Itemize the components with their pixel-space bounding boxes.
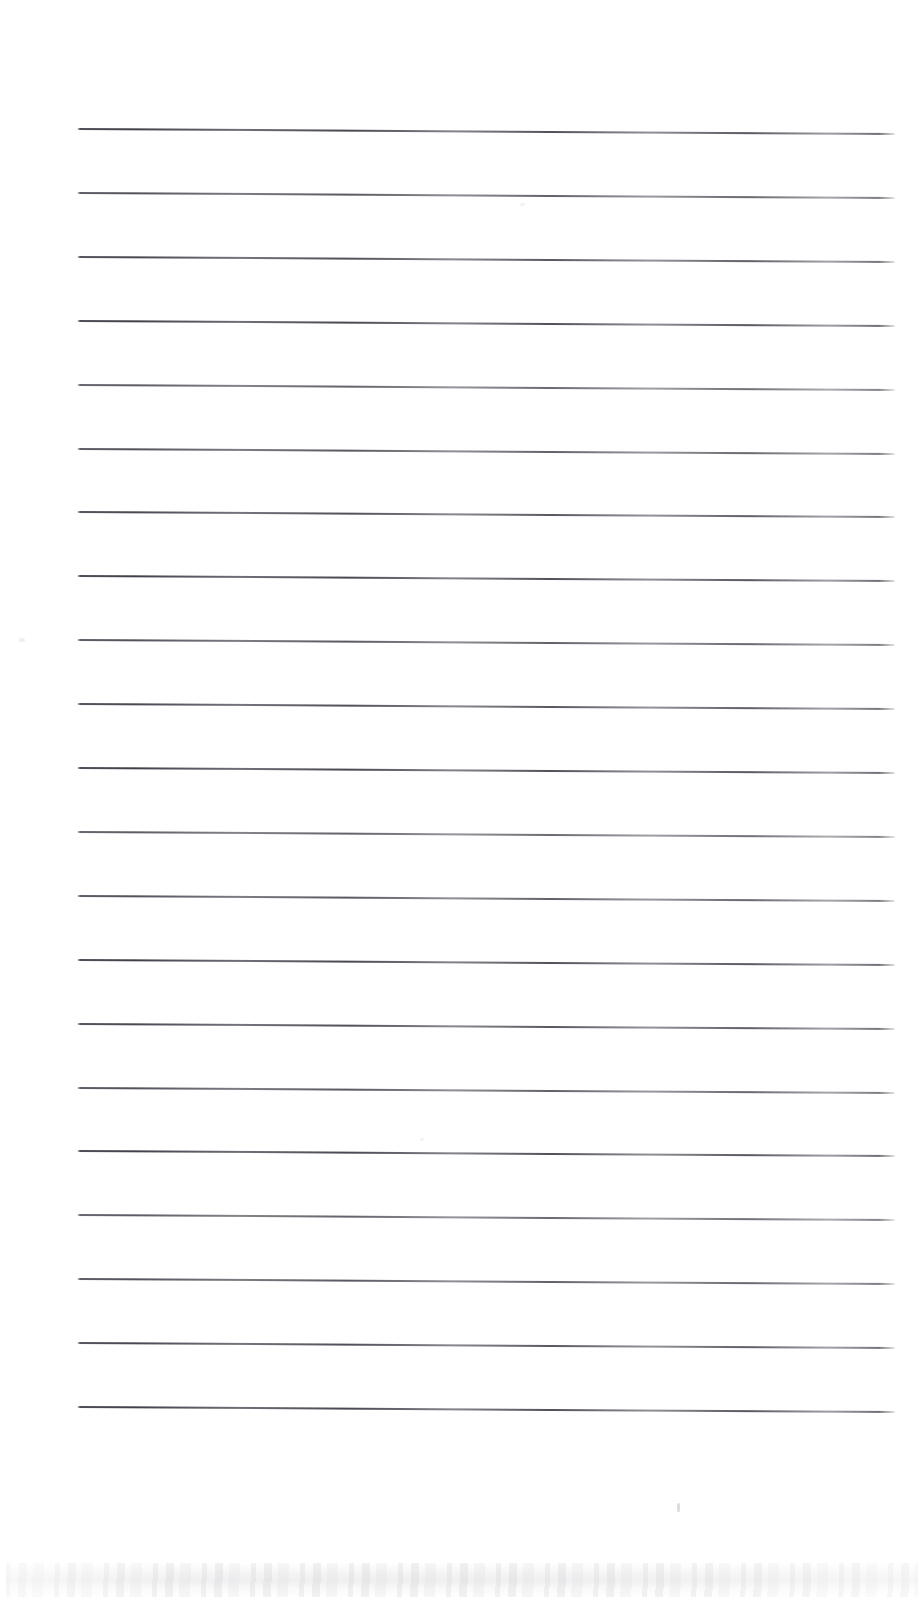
rule-line bbox=[77, 1406, 895, 1413]
rule-line bbox=[77, 320, 895, 327]
rule-line bbox=[77, 1278, 895, 1285]
rule-line bbox=[77, 767, 895, 774]
scan-speck bbox=[420, 1138, 424, 1141]
scan-smudge-band bbox=[6, 1563, 918, 1597]
ruled-lines-group bbox=[0, 0, 924, 1624]
rule-line bbox=[77, 256, 895, 263]
rule-line bbox=[77, 1214, 895, 1221]
rule-line bbox=[77, 575, 895, 582]
rule-line bbox=[77, 1150, 895, 1157]
rule-line bbox=[77, 448, 895, 455]
rule-line bbox=[77, 1087, 895, 1094]
rule-line bbox=[77, 128, 895, 135]
rule-line bbox=[77, 831, 895, 838]
paper-surface bbox=[0, 0, 924, 1624]
rule-line bbox=[77, 959, 895, 966]
scan-speck bbox=[520, 203, 525, 206]
rule-line bbox=[77, 1023, 895, 1030]
scan-speck bbox=[19, 638, 25, 642]
rule-line bbox=[77, 192, 895, 199]
rule-line bbox=[77, 511, 895, 518]
scanned-page bbox=[0, 0, 924, 1624]
rule-line bbox=[77, 895, 895, 902]
rule-line bbox=[77, 384, 895, 391]
rule-line bbox=[77, 703, 895, 710]
rule-line bbox=[77, 639, 895, 646]
scan-speck bbox=[677, 1503, 680, 1512]
rule-line bbox=[77, 1342, 895, 1349]
